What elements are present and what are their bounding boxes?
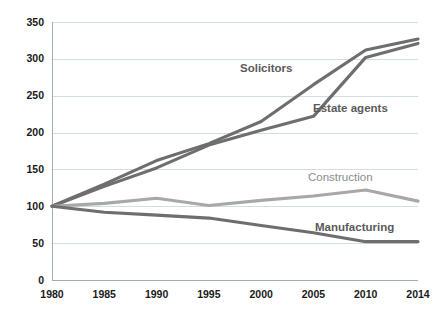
series-label-construction: Construction xyxy=(308,171,373,183)
y-tick-label-250: 250 xyxy=(26,89,44,101)
y-tick-label-300: 300 xyxy=(26,52,44,64)
series-line-construction xyxy=(52,190,418,206)
y-tick-label-350: 350 xyxy=(26,16,44,28)
x-tick-label-2005: 2005 xyxy=(302,288,326,300)
x-tick-label-1995: 1995 xyxy=(197,288,221,300)
series-label-manufacturing: Manufacturing xyxy=(315,221,394,233)
x-axis-tick-labels: 19801985199019952000200520102014 xyxy=(40,288,430,300)
data-series-lines xyxy=(52,39,418,242)
y-tick-label-100: 100 xyxy=(26,200,44,212)
y-tick-label-200: 200 xyxy=(26,126,44,138)
line-chart-figure: 050100150200250300350 198019851990199520… xyxy=(0,0,435,315)
x-tick-label-2000: 2000 xyxy=(249,288,273,300)
chart-plot-area: 050100150200250300350 198019851990199520… xyxy=(0,0,435,315)
y-tick-label-50: 50 xyxy=(32,237,44,249)
series-label-estate-agents: Estate agents xyxy=(313,102,388,114)
series-inline-labels: SolicitorsEstate agentsConstructionManuf… xyxy=(240,62,394,233)
series-label-solicitors: Solicitors xyxy=(240,62,292,74)
x-tick-label-1980: 1980 xyxy=(40,288,64,300)
y-tick-label-150: 150 xyxy=(26,163,44,175)
x-tick-label-2014: 2014 xyxy=(406,288,430,300)
x-tick-label-2010: 2010 xyxy=(354,288,378,300)
x-tick-label-1985: 1985 xyxy=(93,288,117,300)
y-tick-label-0: 0 xyxy=(38,274,44,286)
x-tick-label-1990: 1990 xyxy=(145,288,169,300)
y-axis-tick-labels: 050100150200250300350 xyxy=(26,16,44,286)
